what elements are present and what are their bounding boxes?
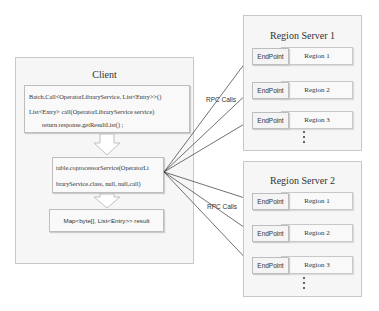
down-arrow-icon	[94, 194, 120, 208]
endpoint-1: EndPoint	[252, 193, 289, 210]
endpoint-3: EndPoint	[252, 112, 289, 129]
rpc-arrow	[164, 55, 251, 172]
region-1: Region 1	[281, 47, 353, 65]
rpc-arrow	[164, 172, 251, 232]
region-server-2-title: Region Server 2	[244, 175, 361, 186]
region-server-1-title: Region Server 1	[244, 30, 361, 41]
rpc-arrow	[164, 120, 251, 172]
rpc-calls-label-2: RPC Calls	[207, 203, 237, 210]
down-arrow-icon	[94, 134, 120, 155]
region-1: Region 1	[281, 192, 353, 210]
endpoint-1: EndPoint	[252, 48, 289, 65]
region-2: Region 2	[281, 224, 353, 242]
region-3: Region 3	[281, 256, 353, 274]
region-2: Region 2	[281, 81, 353, 99]
more-regions-icon	[303, 277, 306, 292]
endpoint-2: EndPoint	[252, 82, 289, 99]
more-regions-icon	[303, 131, 306, 146]
rpc-calls-label-1: RPC Calls	[206, 96, 236, 103]
region-3: Region 3	[281, 111, 353, 129]
endpoint-3: EndPoint	[252, 257, 289, 274]
endpoint-2: EndPoint	[252, 225, 289, 242]
